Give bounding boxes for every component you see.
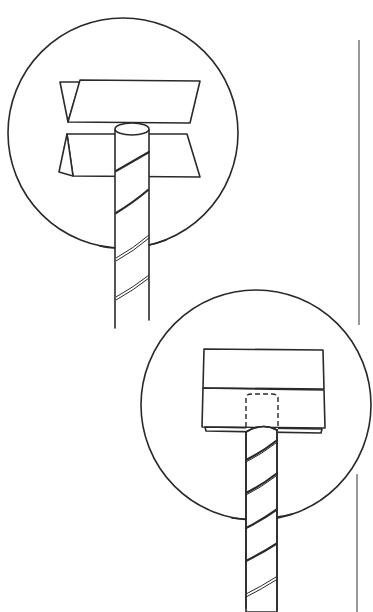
illustration-canvas: [0, 0, 373, 612]
upper-jaw-plate: [68, 80, 200, 123]
grooved-rod-2: [246, 426, 277, 612]
upper-block: [203, 349, 324, 389]
rod-1-top-face: [115, 123, 149, 135]
panel-step-2: [141, 290, 371, 612]
panel-step-1: [8, 18, 238, 333]
